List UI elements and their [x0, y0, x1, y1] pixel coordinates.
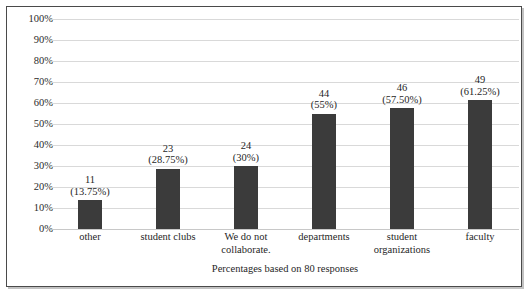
x-axis-tick-label-line: other [51, 231, 129, 244]
chart-caption: Percentages based on 80 responses [51, 263, 519, 275]
bar-value-label: 49(61.25%) [460, 74, 499, 97]
bar-count-value: 49 [460, 74, 499, 86]
bar-slot: 24(30%) [207, 19, 285, 229]
bar-percent-value: (61.25%) [460, 86, 499, 98]
bar-percent-value: (30%) [233, 152, 259, 164]
x-axis-tick-label-line: We do not [207, 231, 285, 244]
y-axis-tick-label: 90% [11, 35, 53, 45]
bar-value-label: 24(30%) [233, 140, 259, 163]
bar-slot: 23(28.75%) [129, 19, 207, 229]
bar-value-label: 44(55%) [311, 88, 337, 111]
y-axis-tick-label: 100% [11, 14, 53, 24]
x-axis-tick-label-line: departments [285, 231, 363, 244]
y-axis-tick-label: 0% [11, 224, 53, 234]
x-axis-tick-label: studentorganizations [363, 231, 441, 256]
y-axis-tick-label: 80% [11, 56, 53, 66]
bar-slot: 49(61.25%) [441, 19, 519, 229]
x-axis-tick-label: other [51, 231, 129, 244]
bar[interactable] [156, 169, 180, 229]
bar-count-value: 44 [311, 88, 337, 100]
bar-value-label: 11(13.75%) [70, 174, 109, 197]
y-axis-tick-label: 30% [11, 161, 53, 171]
x-axis-tick-label-line: organizations [363, 244, 441, 257]
y-axis-tick-label: 70% [11, 77, 53, 87]
x-axis-tick-label-line: faculty [441, 231, 519, 244]
bar-slot: 46(57.50%) [363, 19, 441, 229]
y-axis: 0%10%20%30%40%50%60%70%80%90%100% [7, 7, 53, 286]
y-axis-tick-label: 60% [11, 98, 53, 108]
y-axis-tick-label: 10% [11, 203, 53, 213]
bar-count-value: 24 [233, 140, 259, 152]
bar[interactable] [390, 108, 414, 229]
chart-plot-area: 0%10%20%30%40%50%60%70%80%90%100% 11(13.… [7, 7, 521, 286]
bar-value-label: 46(57.50%) [382, 82, 421, 105]
y-axis-tick-label: 20% [11, 182, 53, 192]
chart-frame: 0%10%20%30%40%50%60%70%80%90%100% 11(13.… [6, 6, 522, 287]
bar-series: 11(13.75%)23(28.75%)24(30%)44(55%)46(57.… [51, 19, 519, 229]
bar[interactable] [234, 166, 258, 229]
y-axis-tick-label: 40% [11, 140, 53, 150]
x-axis-tick-label-line: collaborate. [207, 244, 285, 257]
x-axis-tick-label: faculty [441, 231, 519, 244]
x-axis-tick-label: departments [285, 231, 363, 244]
x-axis-tick-label: student clubs [129, 231, 207, 244]
y-axis-tick-label: 50% [11, 119, 53, 129]
bar-count-value: 23 [148, 143, 187, 155]
bar[interactable] [312, 114, 336, 230]
bar[interactable] [78, 200, 102, 229]
x-axis-tick-label-line: student clubs [129, 231, 207, 244]
bar-slot: 44(55%) [285, 19, 363, 229]
x-axis-tick-label: We do notcollaborate. [207, 231, 285, 256]
bar-count-value: 46 [382, 82, 421, 94]
bar-count-value: 11 [70, 174, 109, 186]
bar-percent-value: (28.75%) [148, 154, 187, 166]
bar-slot: 11(13.75%) [51, 19, 129, 229]
bar-percent-value: (55%) [311, 99, 337, 111]
bar-percent-value: (57.50%) [382, 94, 421, 106]
x-axis-tick-label-line: student [363, 231, 441, 244]
bar-percent-value: (13.75%) [70, 186, 109, 198]
bar[interactable] [468, 100, 492, 229]
bar-value-label: 23(28.75%) [148, 143, 187, 166]
axis-baseline [51, 229, 519, 230]
